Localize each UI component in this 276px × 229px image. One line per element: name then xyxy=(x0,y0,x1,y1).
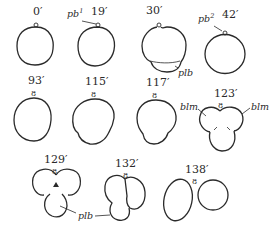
egg-outline xyxy=(142,27,186,72)
time-label: 138′ xyxy=(185,163,209,176)
blastomere-label-right: blm xyxy=(251,101,269,112)
time-label: 115′ xyxy=(85,75,109,88)
time-label: 129′ xyxy=(44,153,68,166)
polar-bodies-mark: 8 xyxy=(152,91,157,100)
polar-body xyxy=(157,23,161,27)
egg-outline xyxy=(17,27,53,65)
time-label: 123′ xyxy=(214,87,238,100)
egg-outline xyxy=(14,98,51,141)
polar-bodies-mark: 8 xyxy=(91,90,96,99)
stage-138min: 138′ 8 xyxy=(160,163,228,223)
stage-30min: 30′ plb xyxy=(142,4,193,78)
polar-lobe-outline xyxy=(210,131,235,151)
polar-lobe-outline xyxy=(45,194,67,217)
stage-93min: 93′ 8 xyxy=(14,74,51,141)
cleavage-vertex xyxy=(53,182,59,187)
stage-117min: 117′ 8 xyxy=(137,76,176,144)
stage-129min: 129′ 8 xyxy=(33,153,81,217)
time-label: 0′ xyxy=(33,5,43,18)
leader-line-to-129 xyxy=(60,206,76,213)
stage-115min: 115′ 8 xyxy=(73,75,114,144)
time-label: 117′ xyxy=(146,76,170,89)
cleavage-mark xyxy=(214,127,217,130)
polar-body-label: pb1 xyxy=(67,7,83,19)
leader-line xyxy=(82,21,96,24)
blastomere-small xyxy=(198,180,228,210)
egg-outline xyxy=(73,99,114,144)
egg-outline xyxy=(205,35,245,74)
polar-lobe-furrow xyxy=(150,61,180,63)
stage-19min: 19′ pb1 xyxy=(67,5,114,66)
polar-body-label: pb2 xyxy=(198,12,214,24)
time-label: 30′ xyxy=(146,4,163,17)
blastomere-outlines xyxy=(200,107,243,132)
polar-lobe-label-shared: plb xyxy=(78,210,93,221)
right-blastomere-outline xyxy=(125,177,145,209)
leader-line-left xyxy=(198,109,206,116)
blastomere-label-left: blm xyxy=(180,101,198,112)
time-label: 42′ xyxy=(222,8,239,21)
polar-bodies-mark: 8 xyxy=(192,177,197,186)
stage-132min: 132′ 8 xyxy=(105,157,145,220)
polar-lobe-label: plb xyxy=(178,67,193,78)
time-label: 93′ xyxy=(28,74,45,87)
leader-line xyxy=(214,26,222,31)
egg-outline xyxy=(137,100,176,144)
leader-line-right xyxy=(242,108,250,114)
stage-123min: 123′ 8 blm blm xyxy=(180,87,269,151)
cleavage-mark xyxy=(227,127,230,130)
polar-bodies-mark: 8 xyxy=(31,89,36,98)
blastomere-large xyxy=(160,177,196,224)
stage-0min: 0′ xyxy=(17,5,53,65)
egg-outline xyxy=(78,27,114,66)
cleavage-stage-diagram: 0′ 19′ pb1 30′ plb 42′ pb2 93′ 8 115′ 8 … xyxy=(0,0,276,229)
stage-42min: 42′ pb2 xyxy=(198,8,245,74)
time-label: 19′ xyxy=(91,5,108,18)
leader-line-to-132 xyxy=(95,215,110,216)
time-label: 132′ xyxy=(115,157,139,170)
